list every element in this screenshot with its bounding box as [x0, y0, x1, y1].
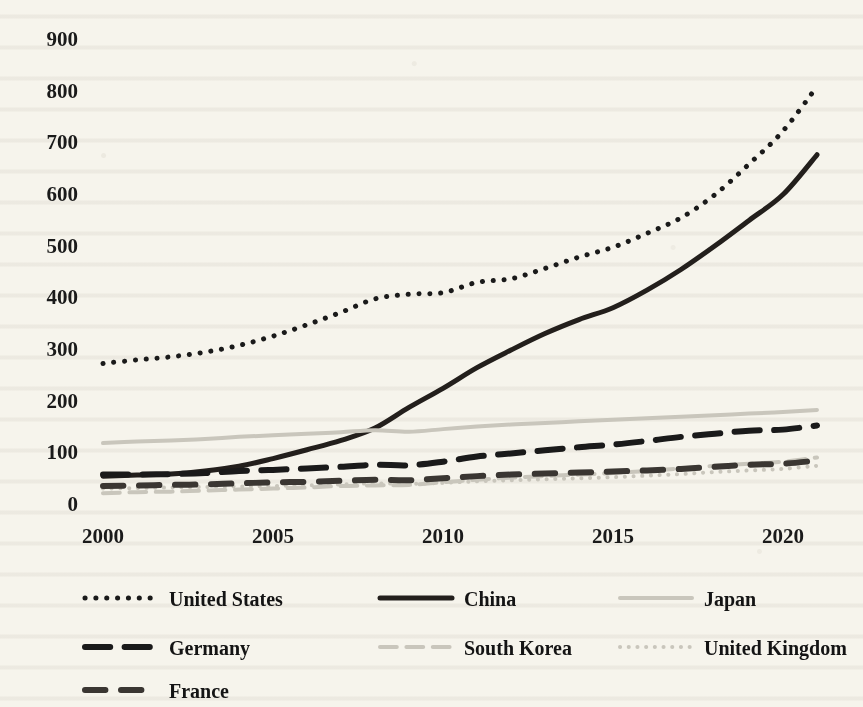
legend-label-united-kingdom: United Kingdom — [704, 637, 847, 660]
x-tick-label: 2015 — [592, 524, 634, 548]
y-tick-label: 900 — [47, 27, 79, 51]
y-axis-tick-labels: 0100200300400500600700800900 — [47, 27, 79, 516]
legend-item-germany[interactable]: Germany — [85, 637, 250, 660]
x-axis-tick-labels: 20002005201020152020 — [82, 524, 804, 548]
x-tick-label: 2000 — [82, 524, 124, 548]
y-tick-label: 800 — [47, 79, 79, 103]
x-tick-label: 2010 — [422, 524, 464, 548]
legend-item-united-kingdom[interactable]: United Kingdom — [620, 637, 847, 660]
legend-item-south-korea[interactable]: South Korea — [380, 637, 572, 659]
y-tick-label: 600 — [47, 182, 79, 206]
chart-series-group — [103, 87, 817, 494]
legend-label-japan: Japan — [704, 588, 756, 611]
legend-label-germany: Germany — [169, 637, 250, 660]
y-tick-label: 0 — [68, 492, 79, 516]
x-tick-label: 2020 — [762, 524, 804, 548]
x-tick-label: 2005 — [252, 524, 294, 548]
y-tick-label: 400 — [47, 285, 79, 309]
chart-legend: United StatesChinaJapanGermanySouth Kore… — [85, 588, 847, 702]
legend-item-japan[interactable]: Japan — [620, 588, 756, 611]
y-tick-label: 500 — [47, 234, 79, 258]
legend-item-united-states[interactable]: United States — [85, 588, 283, 610]
legend-label-china: China — [464, 588, 516, 610]
series-line-japan — [103, 410, 817, 443]
legend-item-france[interactable]: France — [85, 680, 229, 702]
series-line-united-states — [103, 87, 817, 364]
legend-label-france: France — [169, 680, 229, 702]
y-tick-label: 700 — [47, 130, 79, 154]
legend-label-south-korea: South Korea — [464, 637, 572, 659]
chart-page: 0100200300400500600700800900 20002005201… — [0, 0, 863, 707]
y-tick-label: 200 — [47, 389, 79, 413]
y-tick-label: 100 — [47, 440, 79, 464]
legend-label-united-states: United States — [169, 588, 283, 610]
line-chart: 0100200300400500600700800900 20002005201… — [0, 0, 863, 707]
series-line-south-korea — [103, 458, 817, 494]
y-tick-label: 300 — [47, 337, 79, 361]
legend-item-china[interactable]: China — [380, 588, 516, 610]
